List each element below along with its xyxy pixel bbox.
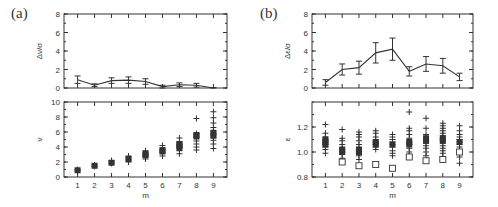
x-tick-label: 9 — [211, 181, 216, 190]
y-tick-label: 2 — [56, 158, 61, 167]
figure-canvas: 02468Δν/σ123456789m0246810ν02468Δε/σ1234… — [0, 0, 498, 207]
chart-b-bottom: 123456789m0.81.01.2ε — [283, 102, 473, 200]
y-tick-label: 0 — [56, 84, 61, 93]
x-tick-label: 2 — [92, 181, 97, 190]
filled-square-marker — [322, 137, 328, 143]
chart-b-top: 02468Δε/σ — [283, 10, 473, 93]
x-tick-label: 6 — [407, 181, 412, 190]
x-tick-label: 2 — [340, 181, 345, 190]
open-square-marker — [423, 158, 429, 164]
filled-square-marker — [75, 167, 81, 173]
plot-frame — [64, 14, 227, 88]
filled-square-marker — [176, 141, 182, 147]
chart-a-bottom: 123456789m0246810ν — [35, 98, 227, 200]
filled-square-marker — [423, 135, 429, 141]
y-tick-label: 8 — [56, 113, 61, 122]
y-tick-label: 4 — [56, 47, 61, 56]
y-axis-label: ν — [35, 138, 44, 142]
y-tick-label: 4 — [56, 143, 61, 152]
filled-square-marker — [356, 147, 362, 153]
filled-square-marker — [339, 147, 345, 153]
open-square-marker — [373, 162, 379, 168]
x-tick-label: 6 — [160, 181, 165, 190]
y-tick-label: 1.2 — [297, 123, 309, 132]
x-tick-label: 1 — [323, 181, 328, 190]
x-tick-label: 4 — [374, 181, 379, 190]
filled-square-marker — [143, 151, 149, 157]
y-tick-label: 4 — [304, 47, 309, 56]
filled-square-marker — [457, 139, 463, 145]
y-tick-label: 0 — [304, 84, 309, 93]
x-tick-label: 3 — [109, 181, 114, 190]
open-square-marker — [406, 154, 412, 160]
x-tick-label: 8 — [441, 181, 446, 190]
x-tick-label: 5 — [390, 181, 395, 190]
filled-square-marker — [92, 163, 98, 169]
x-tick-label: 3 — [357, 181, 362, 190]
open-square-marker — [356, 163, 362, 169]
y-tick-label: 2 — [304, 66, 309, 75]
filled-square-marker — [193, 132, 199, 138]
filled-square-marker — [406, 139, 412, 145]
y-tick-label: 0 — [56, 173, 61, 182]
filled-square-marker — [210, 130, 216, 136]
x-axis-label: m — [142, 191, 149, 200]
x-tick-label: 5 — [143, 181, 148, 190]
filled-square-marker — [390, 142, 396, 148]
y-tick-label: 1.0 — [297, 148, 309, 157]
filled-square-marker — [440, 135, 446, 141]
chart-a-top: 02468Δν/σ — [35, 10, 227, 93]
x-axis-label: m — [389, 191, 396, 200]
y-tick-label: 8 — [304, 10, 309, 19]
x-tick-label: 7 — [424, 181, 429, 190]
x-tick-label: 9 — [457, 181, 462, 190]
filled-square-marker — [373, 139, 379, 145]
x-tick-label: 8 — [194, 181, 199, 190]
open-square-marker — [457, 149, 463, 155]
open-square-marker — [390, 165, 396, 171]
y-tick-label: 0.8 — [297, 173, 309, 182]
filled-square-marker — [109, 160, 115, 166]
y-tick-label: 6 — [304, 29, 309, 38]
filled-square-marker — [126, 156, 132, 162]
y-axis-label: ε — [283, 137, 292, 141]
filled-square-marker — [159, 147, 165, 153]
plot-frame — [64, 102, 227, 177]
open-square-marker — [440, 157, 446, 163]
y-tick-label: 2 — [56, 66, 61, 75]
y-tick-label: 6 — [56, 29, 61, 38]
y-tick-label: 8 — [56, 10, 61, 19]
x-tick-label: 7 — [177, 181, 182, 190]
open-square-marker — [339, 159, 345, 165]
x-tick-label: 1 — [75, 181, 80, 190]
y-tick-label: 10 — [51, 98, 60, 107]
y-tick-label: 6 — [56, 128, 61, 137]
y-axis-label: Δν/σ — [35, 43, 44, 60]
y-axis-label: Δε/σ — [283, 43, 292, 59]
x-tick-label: 4 — [126, 181, 131, 190]
